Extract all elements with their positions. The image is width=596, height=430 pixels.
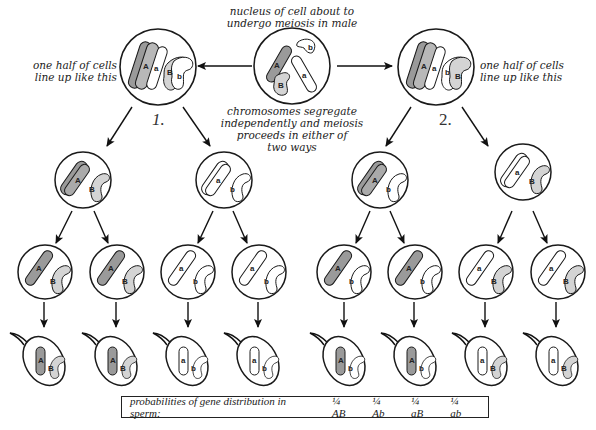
meiosis2-cell-Ab-2: A b: [388, 245, 442, 299]
allele-B-label: B: [167, 68, 173, 77]
allele-b-label: b: [349, 277, 354, 286]
allele-B-label: B: [278, 81, 284, 90]
allele-A-label: A: [38, 356, 44, 365]
meiosis1-cell-aB: a B: [495, 144, 551, 200]
allele-a-label: a: [515, 168, 520, 177]
meiosis2-cell-AB-2: A B: [90, 245, 144, 299]
sperm-Ab-1: A b: [310, 329, 373, 393]
allele-A-label: A: [421, 62, 427, 71]
allele-a-label: a: [549, 264, 554, 273]
lineup-1-caption: one half of cells line up like this: [10, 59, 117, 83]
meiosis1-cell-ab: a b: [196, 152, 252, 208]
lineup-2-line-1: one half of cells: [480, 59, 596, 71]
allele-B-label: B: [50, 277, 56, 286]
lineup-1-line-2: line up like this: [10, 71, 117, 83]
allele-A-label: A: [274, 61, 280, 70]
allele-A-label: A: [143, 62, 149, 71]
meiosis2-cell-aB-2: a B: [531, 245, 585, 299]
lineup-1-nucleus: A a B b: [120, 29, 196, 105]
allele-a-label: a: [250, 264, 255, 273]
lineup-2-nucleus: A a b B: [398, 29, 474, 105]
allele-A-label: A: [409, 356, 415, 365]
way-1-label: 1.: [152, 110, 165, 130]
allele-B-label: B: [491, 277, 497, 286]
lineup-2-line-2: line up like this: [480, 71, 596, 83]
allele-B-label: B: [561, 364, 567, 373]
allele-a-label: a: [154, 64, 159, 73]
allele-A-label: A: [108, 264, 114, 273]
allele-b-label: b: [264, 277, 269, 286]
segregate-line-2: independently and meiosis: [216, 117, 368, 129]
top-caption: nucleus of cell about to undergo meiosis…: [220, 5, 364, 29]
allele-B-label: B: [529, 177, 535, 186]
sperm-AB-2: A B: [82, 329, 145, 393]
allele-A-label: A: [36, 264, 42, 273]
sperm-AB-1: A B: [10, 329, 73, 393]
sperm-ab-2: a b: [224, 329, 287, 393]
allele-b-label: b: [420, 277, 425, 286]
allele-B-label: B: [89, 185, 95, 194]
allele-B-label: B: [490, 364, 496, 373]
allele-A-label: A: [335, 264, 341, 273]
allele-a-label: a: [179, 264, 184, 273]
allele-b-label: b: [177, 72, 182, 81]
allele-a-label: a: [302, 71, 307, 80]
allele-b-label: b: [191, 364, 196, 373]
meiosis2-cell-aB-1: a B: [459, 245, 513, 299]
allele-a-label: a: [432, 64, 437, 73]
probability-AB: ¼ AB: [332, 395, 356, 419]
lineup-2-caption: one half of cells line up like this: [480, 59, 596, 83]
allele-b-label: b: [419, 364, 424, 373]
allele-B-label: B: [122, 277, 128, 286]
allele-A-label: A: [110, 356, 116, 365]
allele-B-label: B: [455, 72, 461, 81]
parent-nucleus: A a b B: [254, 28, 330, 104]
meiosis1-cell-Ab: A b: [352, 152, 408, 208]
top-caption-line-1: nucleus of cell about to: [220, 5, 364, 17]
allele-B-label: B: [48, 364, 54, 373]
allele-A-label: A: [75, 176, 81, 185]
allele-A-label: A: [338, 356, 344, 365]
probability-Ab: ¼ Ab: [372, 395, 395, 419]
probabilities-title: probabilities of gene distribution in sp…: [130, 395, 318, 419]
allele-B-label: B: [563, 277, 569, 286]
allele-a-label: a: [181, 356, 186, 365]
meiosis2-cell-AB-1: A B: [18, 245, 72, 299]
allele-b-label: b: [193, 277, 198, 286]
allele-b-label: b: [262, 364, 267, 373]
allele-B-label: B: [120, 364, 126, 373]
probability-aB: ¼ aB: [411, 395, 434, 419]
allele-A-label: A: [372, 176, 378, 185]
top-caption-line-2: undergo meiosis in male: [220, 17, 364, 29]
meiosis2-cell-Ab-1: A b: [317, 245, 371, 299]
way-2-label: 2.: [439, 110, 452, 130]
allele-b-label: b: [445, 68, 450, 77]
segregate-line-3: proceeds in either of: [216, 129, 368, 141]
sperm-aB-1: a B: [452, 329, 515, 393]
meiosis-diagram: A a b B A a B b A a b B A: [0, 0, 596, 430]
meiosis2-cell-ab-2: a b: [232, 245, 286, 299]
allele-b-label: b: [308, 43, 313, 52]
allele-b-label: b: [386, 185, 391, 194]
segregate-line-4: two ways: [216, 141, 368, 153]
meiosis1-cell-AB: A B: [55, 152, 111, 208]
sperm-aB-2: a B: [523, 329, 586, 393]
allele-a-label: a: [480, 356, 485, 365]
allele-A-label: A: [406, 264, 412, 273]
probability-ab: ¼ ab: [450, 395, 472, 419]
segregate-line-1: chromosomes segregate: [216, 105, 368, 117]
sperm-ab-1: a b: [153, 329, 216, 393]
allele-b-label: b: [348, 364, 353, 373]
allele-a-label: a: [477, 264, 482, 273]
meiosis2-cell-ab-1: a b: [161, 245, 215, 299]
lineup-1-line-1: one half of cells: [10, 59, 117, 71]
allele-a-label: a: [551, 356, 556, 365]
allele-b-label: b: [230, 185, 235, 194]
probabilities-box: probabilities of gene distribution in sp…: [121, 396, 489, 418]
allele-a-label: a: [216, 176, 221, 185]
allele-a-label: a: [252, 356, 257, 365]
sperm-Ab-2: A b: [381, 329, 444, 393]
segregate-caption: chromosomes segregate independently and …: [216, 105, 368, 153]
